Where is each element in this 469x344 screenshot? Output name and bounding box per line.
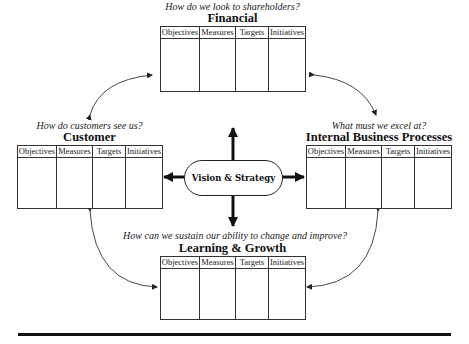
column-header-targets: Targets — [93, 146, 126, 158]
table-body-row — [307, 158, 452, 209]
table-body-row — [18, 158, 163, 209]
internal-title: Internal Business Processes — [292, 130, 466, 145]
cell-initiatives[interactable] — [415, 158, 452, 209]
column-header-initiatives: Initiatives — [415, 146, 452, 158]
cell-objectives[interactable] — [161, 269, 200, 320]
table-header-row: Objectives Measures Targets Initiatives — [161, 27, 306, 39]
curve-customer-financial — [90, 75, 152, 115]
cell-measures[interactable] — [200, 39, 236, 92]
curve-financial-internal — [314, 75, 376, 115]
learning-question: How can we sustain our ability to change… — [90, 230, 380, 241]
curve-customer-learning — [90, 211, 157, 287]
table-header-row: Objectives Measures Targets Initiatives — [18, 146, 163, 158]
column-header-objectives: Objectives — [161, 27, 200, 39]
column-header-measures: Measures — [346, 146, 382, 158]
column-header-objectives: Objectives — [307, 146, 346, 158]
learning-table: Objectives Measures Targets Initiatives — [160, 256, 306, 320]
column-header-initiatives: Initiatives — [126, 146, 163, 158]
internal-table: Objectives Measures Targets Initiatives — [306, 145, 452, 209]
column-header-measures: Measures — [57, 146, 93, 158]
cell-measures[interactable] — [346, 158, 382, 209]
vision-strategy-label: Vision & Strategy — [192, 173, 275, 183]
cell-targets[interactable] — [236, 269, 269, 320]
column-header-measures: Measures — [200, 27, 236, 39]
cell-objectives[interactable] — [161, 39, 200, 92]
cell-initiatives[interactable] — [269, 269, 306, 320]
column-header-measures: Measures — [200, 257, 236, 269]
column-header-targets: Targets — [236, 27, 269, 39]
curve-internal-learning — [307, 211, 378, 287]
customer-table: Objectives Measures Targets Initiatives — [17, 145, 163, 209]
cell-measures[interactable] — [200, 269, 236, 320]
bottom-divider — [18, 333, 451, 336]
column-header-initiatives: Initiatives — [269, 27, 306, 39]
cell-initiatives[interactable] — [269, 39, 306, 92]
table-header-row: Objectives Measures Targets Initiatives — [307, 146, 452, 158]
financial-table: Objectives Measures Targets Initiatives — [160, 26, 306, 92]
cell-initiatives[interactable] — [126, 158, 163, 209]
column-header-initiatives: Initiatives — [269, 257, 306, 269]
cell-measures[interactable] — [57, 158, 93, 209]
column-header-targets: Targets — [236, 257, 269, 269]
table-body-row — [161, 39, 306, 92]
vision-strategy-node: Vision & Strategy — [184, 160, 283, 196]
financial-title: Financial — [160, 11, 305, 26]
customer-title: Customer — [17, 130, 162, 145]
cell-objectives[interactable] — [18, 158, 57, 209]
cell-targets[interactable] — [93, 158, 126, 209]
column-header-targets: Targets — [382, 146, 415, 158]
cell-targets[interactable] — [382, 158, 415, 209]
table-header-row: Objectives Measures Targets Initiatives — [161, 257, 306, 269]
learning-title: Learning & Growth — [160, 241, 305, 256]
cell-objectives[interactable] — [307, 158, 346, 209]
table-body-row — [161, 269, 306, 320]
cell-targets[interactable] — [236, 39, 269, 92]
column-header-objectives: Objectives — [18, 146, 57, 158]
column-header-objectives: Objectives — [161, 257, 200, 269]
